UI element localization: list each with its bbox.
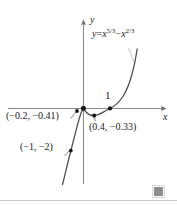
curve-right-branch <box>83 49 137 116</box>
point-marker-local-min <box>92 114 96 118</box>
plot-canvas <box>0 0 177 205</box>
equation-term2-exponent: 2/3 <box>126 27 135 34</box>
curve-left-branch <box>63 108 84 184</box>
x-axis-label: x <box>163 112 167 122</box>
y-axis-label: y <box>90 15 94 25</box>
leader-line-equation <box>129 48 135 62</box>
annotation-point-b: (0.4, −0.33) <box>89 122 136 132</box>
end-of-proof-square <box>153 186 164 197</box>
leader-line-point-a <box>71 112 77 119</box>
point-marker-left-inflection <box>75 109 79 113</box>
bottom-divider <box>0 200 177 201</box>
annotation-point-c: (−1, −2) <box>20 142 53 152</box>
point-marker-cusp <box>81 106 86 111</box>
annotation-point-a: (−0.2, −0.41) <box>6 111 59 121</box>
point-marker-minus-one <box>69 149 73 153</box>
equation-label: y=x5/3−x2/3 <box>92 29 134 39</box>
graph-figure: x y y=x5/3−x2/3 1 (−0.2, −0.41) (0.4, −0… <box>0 0 177 205</box>
point-marker-x-intercept <box>108 106 112 110</box>
x-tick-label-1: 1 <box>105 90 111 101</box>
